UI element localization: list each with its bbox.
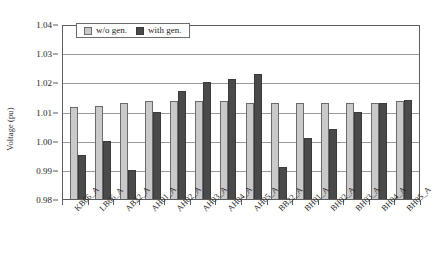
bar-with-gen	[153, 112, 161, 200]
bar-group	[316, 26, 341, 199]
y-axis-title-text: Voltage (pu)	[5, 107, 15, 150]
y-tick-label: 1.02	[36, 78, 52, 88]
bar-with-gen	[203, 82, 211, 199]
y-axis-tick-labels: 1.041.031.021.011.000.990.98	[16, 0, 58, 257]
bar-with-gen	[254, 74, 262, 199]
bar-group	[90, 26, 115, 199]
plot-area	[62, 25, 420, 200]
bar-with-gen	[228, 79, 236, 199]
bar-group	[392, 26, 417, 199]
y-tick-mark	[53, 200, 58, 201]
voltage-bar-chart: Voltage (pu) 1.041.031.021.011.000.990.9…	[0, 0, 436, 257]
light-gray-square-icon	[84, 27, 92, 35]
legend-label-with-gen: with gen.	[148, 26, 182, 35]
bar-group	[216, 26, 241, 199]
bar-group	[291, 26, 316, 199]
bar-with-gen	[103, 141, 111, 199]
bar-group	[367, 26, 392, 199]
bar-with-gen	[404, 100, 412, 199]
y-tick-label: 1.03	[36, 49, 52, 59]
bar-group	[241, 26, 266, 199]
y-tick-label: 0.99	[36, 166, 52, 176]
y-tick-label: 1.00	[36, 137, 52, 147]
bar-with-gen	[354, 112, 362, 200]
dark-gray-square-icon	[136, 27, 144, 35]
y-tick-mark	[53, 141, 58, 142]
y-tick-label: 1.01	[36, 108, 52, 118]
bar-wo-gen	[95, 106, 103, 199]
bar-group	[191, 26, 216, 199]
y-tick-label: 0.98	[36, 195, 52, 205]
x-axis-tick-labels: KB66_ALB66_AAB22_AAH01_AAH02_AAH03_AAH04…	[62, 206, 420, 257]
legend-label-wo-gen: w/o gen.	[96, 26, 127, 35]
bar-group	[140, 26, 165, 199]
bar-group	[65, 26, 90, 199]
bar-wo-gen	[70, 107, 78, 199]
bar-with-gen	[279, 167, 287, 199]
bar-with-gen	[178, 91, 186, 199]
bar-with-gen	[379, 103, 387, 199]
bar-group	[342, 26, 367, 199]
y-tick-mark	[53, 83, 58, 84]
bar-group	[266, 26, 291, 199]
y-tick-mark	[53, 170, 58, 171]
y-tick-mark	[53, 54, 58, 55]
legend-item-with-gen: with gen.	[136, 26, 182, 35]
y-tick-label: 1.04	[36, 20, 52, 30]
bar-with-gen	[329, 129, 337, 199]
x-tick-mark	[62, 200, 63, 205]
chart-legend: w/o gen. with gen.	[76, 23, 190, 38]
bar-groups	[63, 26, 419, 199]
bar-with-gen	[304, 138, 312, 199]
y-tick-mark	[53, 112, 58, 113]
bar-group	[115, 26, 140, 199]
bar-wo-gen	[120, 103, 128, 199]
y-tick-mark	[53, 25, 58, 26]
legend-item-wo-gen: w/o gen.	[84, 26, 127, 35]
bar-group	[166, 26, 191, 199]
